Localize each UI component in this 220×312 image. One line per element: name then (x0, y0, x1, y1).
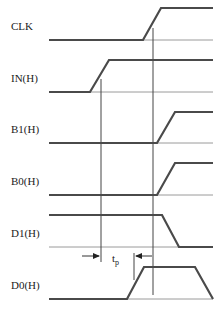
b1-label: B1(H) (11, 123, 39, 136)
timing-diagram: CLK IN(H) B1(H) B0(H) D1(H) D0(H) tp (0, 0, 220, 312)
b0-waveform (49, 163, 213, 195)
d0-waveform (49, 267, 213, 299)
d1-waveform (49, 215, 213, 247)
d1-label: D1(H) (11, 227, 40, 240)
d0-label: D0(H) (11, 279, 40, 292)
baselines (49, 40, 213, 299)
b1-waveform (49, 112, 213, 143)
waveforms (49, 8, 213, 299)
clk-waveform (49, 8, 213, 40)
clk-label: CLK (11, 20, 33, 32)
propagation-delay-annotation: tp (82, 252, 152, 267)
right-pointing-arrowhead-icon (93, 253, 100, 259)
tp-subscript: p (115, 258, 119, 267)
in-waveform (49, 60, 213, 92)
left-pointing-arrowhead-icon (135, 253, 142, 259)
b0-label: B0(H) (11, 175, 39, 188)
in-label: IN(H) (11, 72, 38, 85)
signal-labels: CLK IN(H) B1(H) B0(H) D1(H) D0(H) (11, 20, 40, 292)
tp-label: tp (112, 252, 119, 267)
